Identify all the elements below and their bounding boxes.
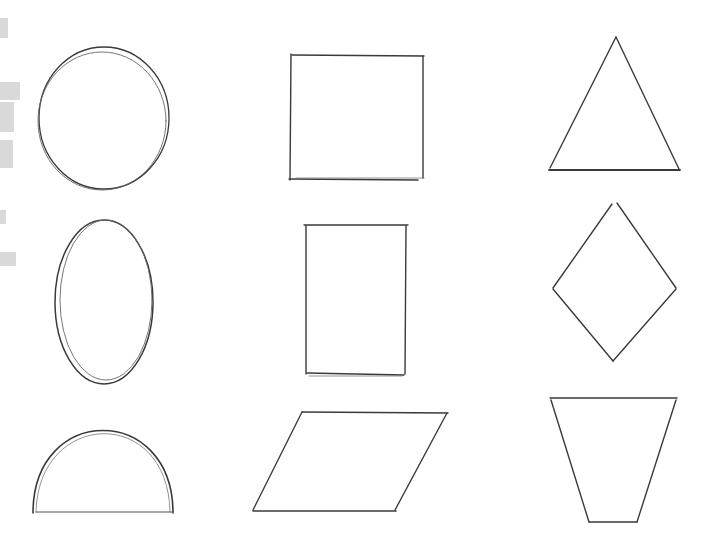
triangle-shape — [549, 37, 680, 170]
square-shape — [289, 54, 424, 180]
diamond-shape — [553, 203, 676, 361]
trapezoid-shape — [550, 398, 677, 522]
semicircle-shape — [33, 431, 173, 514]
parallelogram-shape — [253, 412, 448, 511]
ellipse-shape — [55, 220, 153, 384]
edge-smudges — [0, 18, 20, 266]
circle-shape — [38, 47, 169, 190]
shapes-canvas — [0, 0, 707, 553]
rectangle-shape — [304, 225, 408, 376]
